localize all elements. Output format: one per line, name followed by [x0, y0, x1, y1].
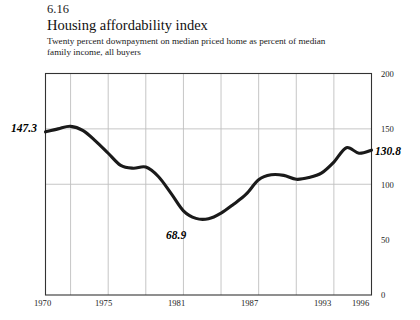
annotation-min-value: 68.9: [166, 229, 186, 241]
x-tick-label-1987: 1987: [241, 298, 258, 308]
y-tick-label-200: 200: [381, 69, 394, 79]
y-tick-label-100: 100: [381, 180, 394, 190]
figure-container: 6.16 Housing affordability index Twenty …: [0, 0, 420, 320]
horizontal-gridlines: [46, 129, 372, 184]
data-line-housing-affordability-index: [46, 126, 372, 219]
y-tick-label-0: 0: [381, 290, 385, 300]
y-tick-label-150: 150: [381, 124, 394, 134]
x-tick-label-1981: 1981: [168, 298, 185, 308]
chart-plot-area: [0, 0, 420, 320]
y-tick-label-50: 50: [381, 235, 390, 245]
x-tick-label-1970: 1970: [34, 298, 51, 308]
x-tick-label-1975: 1975: [95, 298, 112, 308]
annotation-end-value: 130.8: [375, 145, 401, 157]
x-tick-label-1993: 1993: [314, 298, 331, 308]
annotation-start-value: 147.3: [11, 122, 37, 134]
line-chart-svg: [0, 0, 420, 320]
x-tick-label-1996: 1996: [352, 298, 369, 308]
